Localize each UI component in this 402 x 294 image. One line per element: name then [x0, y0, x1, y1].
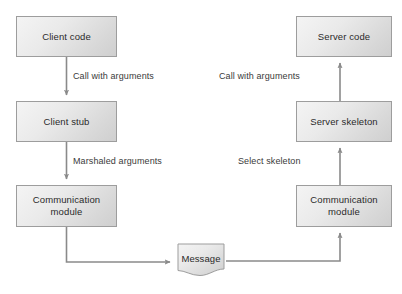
node-client-communication-module[interactable]: Communication module	[16, 185, 117, 227]
edge-label-select-skeleton: Select skeleton	[238, 156, 301, 166]
node-server-code-label: Server code	[314, 31, 374, 43]
node-server-code[interactable]: Server code	[296, 16, 392, 57]
connector-message-to-server-comm	[226, 233, 340, 261]
node-server-comm-line2: module	[306, 206, 381, 218]
node-server-skeleton[interactable]: Server skeleton	[296, 101, 392, 142]
edge-label-marshaled-arguments: Marshaled arguments	[73, 156, 162, 166]
node-server-communication-module[interactable]: Communication module	[296, 185, 392, 227]
node-client-stub[interactable]: Client stub	[16, 101, 117, 142]
node-client-communication-module-label: Communication module	[25, 194, 108, 218]
node-message-label: Message	[181, 253, 220, 264]
diagram-canvas: Client code Client stub Communication mo…	[0, 0, 402, 294]
node-client-stub-label: Client stub	[40, 116, 94, 128]
node-client-comm-line2: module	[29, 206, 104, 218]
node-client-comm-line1: Communication	[29, 194, 104, 206]
node-client-code-label: Client code	[38, 31, 95, 43]
node-message[interactable]: Message	[176, 243, 226, 277]
edge-label-call-with-arguments-client: Call with arguments	[73, 71, 154, 81]
node-server-skeleton-label: Server skeleton	[306, 116, 382, 128]
node-client-code[interactable]: Client code	[16, 16, 117, 57]
node-server-communication-module-label: Communication module	[302, 194, 385, 218]
connector-client-comm-to-message	[67, 227, 171, 262]
edge-label-call-with-arguments-server: Call with arguments	[219, 71, 300, 81]
node-server-comm-line1: Communication	[306, 194, 381, 206]
